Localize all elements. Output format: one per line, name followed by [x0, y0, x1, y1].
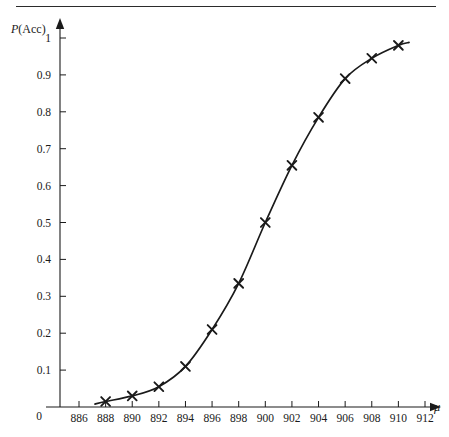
x-axis-ticks [79, 401, 425, 407]
data-point-marker [181, 362, 190, 371]
data-point-marker [261, 218, 270, 227]
x-tick-label: 906 [337, 412, 355, 424]
data-point-marker [367, 54, 376, 63]
x-tick-label: 898 [230, 412, 248, 424]
data-point-marker [234, 279, 243, 288]
y-tick-label: 0.6 [37, 180, 52, 192]
y-axis [56, 18, 64, 407]
y-tick-label: 0.9 [37, 69, 52, 81]
y-axis-ticks [60, 38, 66, 370]
chart-canvas: 0.10.20.30.40.50.60.70.80.91 88688889089… [0, 0, 449, 437]
y-tick-label: 0.5 [37, 217, 52, 229]
x-tick-label: 908 [363, 412, 381, 424]
y-tick-label: 0.2 [37, 327, 52, 339]
data-point-marker [208, 325, 217, 334]
data-point-marker [394, 41, 403, 50]
y-axis-title: P(Acc) [10, 22, 46, 36]
x-tick-label: 912 [416, 412, 434, 424]
y-tick-label: 1 [45, 32, 51, 44]
y-axis-tick-labels: 0.10.20.30.40.50.60.70.80.91 [37, 32, 52, 376]
data-point-markers [101, 41, 403, 406]
x-tick-label: 902 [283, 412, 301, 424]
data-curve [95, 42, 409, 404]
x-axis-title: μ [433, 400, 440, 414]
x-tick-label: 890 [124, 412, 142, 424]
oc-curve-chart: 0.10.20.30.40.50.60.70.80.91 88688889089… [0, 0, 449, 437]
y-tick-label: 0.4 [37, 253, 52, 265]
origin-label: 0 [36, 410, 42, 422]
data-point-marker [154, 382, 163, 391]
y-tick-label: 0.1 [37, 364, 52, 376]
y-tick-label: 0.3 [37, 290, 52, 302]
x-tick-label: 910 [390, 412, 408, 424]
y-tick-label: 0.7 [37, 143, 52, 155]
x-tick-label: 886 [70, 412, 88, 424]
x-tick-label: 904 [310, 412, 328, 424]
x-tick-label: 894 [177, 412, 195, 424]
curve-path [95, 42, 409, 404]
x-tick-label: 892 [150, 412, 168, 424]
figure-page: 0.10.20.30.40.50.60.70.80.91 88688889089… [0, 0, 449, 437]
x-tick-label: 896 [203, 412, 221, 424]
x-tick-label: 888 [97, 412, 115, 424]
data-point-marker [341, 74, 350, 83]
x-axis-tick-labels: 8868888908928948968989009029049069089109… [70, 412, 434, 424]
x-tick-label: 900 [257, 412, 275, 424]
y-tick-label: 0.8 [37, 106, 52, 118]
data-point-marker [314, 113, 323, 122]
data-point-marker [288, 161, 297, 170]
